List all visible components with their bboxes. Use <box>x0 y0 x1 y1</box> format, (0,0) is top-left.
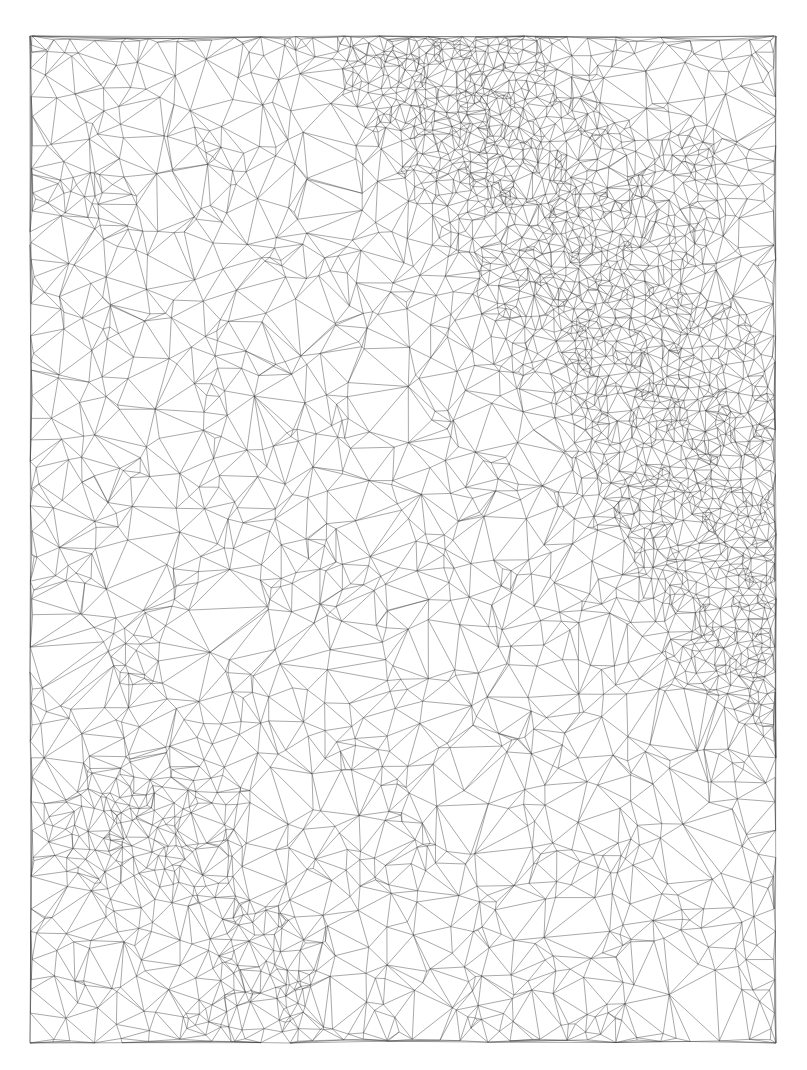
triangle-edges <box>30 36 776 1043</box>
mesh-wireframe <box>0 0 807 1070</box>
tin-mesh-diagram <box>0 0 807 1070</box>
